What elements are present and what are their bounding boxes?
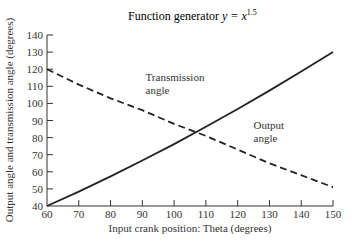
y-tick-label: 60 xyxy=(32,166,44,178)
annotation-label: Output xyxy=(254,119,285,131)
annotations: TransmissionangleOutputangle xyxy=(146,71,285,144)
x-tick-label: 90 xyxy=(137,208,149,220)
transmission-angle-line xyxy=(47,69,333,187)
annotation-label: Transmission xyxy=(146,71,205,83)
chart-title: Function generator y = x1.5 xyxy=(128,8,257,23)
y-tick-label: 70 xyxy=(32,149,44,161)
x-tick-label: 130 xyxy=(261,208,278,220)
y-tick-label: 110 xyxy=(27,80,44,92)
function-generator-chart: Function generator y = x1.5 607080901001… xyxy=(0,0,352,245)
x-tick-label: 100 xyxy=(166,208,183,220)
x-tick-label: 60 xyxy=(42,208,54,220)
x-tick-label: 80 xyxy=(105,208,117,220)
y-tick-label: 120 xyxy=(27,63,44,75)
x-tick-label: 70 xyxy=(73,208,85,220)
x-tick-label: 110 xyxy=(198,208,215,220)
axes xyxy=(47,35,333,206)
x-tick-label: 140 xyxy=(293,208,310,220)
ticks: 6070809010011012013014015040506070809010… xyxy=(27,29,342,220)
y-tick-label: 50 xyxy=(32,183,44,195)
x-tick-label: 150 xyxy=(325,208,342,220)
y-tick-label: 100 xyxy=(27,97,44,109)
y-tick-label: 140 xyxy=(27,29,44,41)
x-tick-label: 120 xyxy=(229,208,246,220)
y-axis-label: Output angle and transmission angle (deg… xyxy=(3,17,16,222)
annotation-label: angle xyxy=(146,84,170,96)
y-tick-label: 130 xyxy=(27,46,44,58)
y-tick-label: 90 xyxy=(32,115,44,127)
annotation-label: angle xyxy=(254,132,278,144)
y-tick-label: 40 xyxy=(32,200,44,212)
y-tick-label: 80 xyxy=(32,132,44,144)
x-axis-label: Input crank position: Theta (degrees) xyxy=(109,222,272,235)
